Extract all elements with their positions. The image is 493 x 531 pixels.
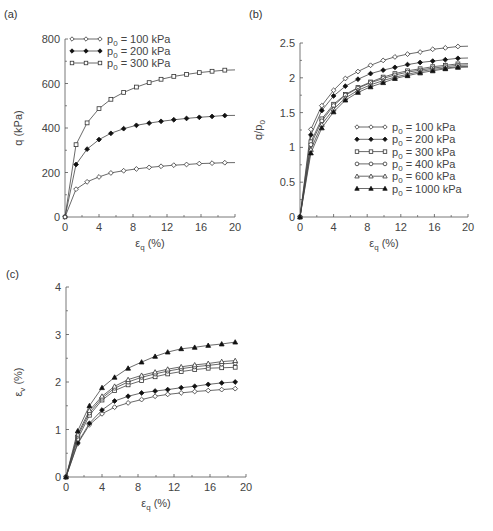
svg-text:2.5: 2.5 (280, 37, 295, 49)
x-axis-label: εq (%) (141, 497, 171, 512)
svg-text:0.5: 0.5 (280, 176, 295, 188)
figure: (a)0481216200200400600800εq (%)q (kPa)p0… (0, 0, 493, 531)
svg-text:200: 200 (42, 167, 60, 179)
svg-text:1.5: 1.5 (280, 107, 295, 119)
chart-panel-c: (c)04812162001234εq (%)εv (%) (6, 268, 252, 512)
svg-text:3: 3 (55, 329, 61, 341)
svg-text:4: 4 (55, 281, 61, 293)
chart-panel-b: (b)04812162000.511.522.5εq (%)q/p0p0 = 1… (249, 8, 474, 252)
series-line (64, 380, 238, 480)
panel-label: (c) (6, 268, 19, 280)
series-line (64, 386, 238, 479)
series-line (63, 68, 235, 219)
series-line (64, 361, 237, 479)
x-axis-label: εq (%) (369, 237, 399, 252)
svg-text:8: 8 (364, 221, 370, 233)
svg-text:0: 0 (54, 211, 60, 223)
svg-text:16: 16 (195, 221, 207, 233)
svg-text:0: 0 (63, 481, 69, 493)
svg-text:12: 12 (168, 481, 180, 493)
svg-text:p0 = 1000 kPa: p0 = 1000 kPa (392, 183, 462, 198)
svg-text:20: 20 (462, 221, 474, 233)
svg-text:8: 8 (130, 221, 136, 233)
svg-text:20: 20 (229, 221, 241, 233)
panel-label: (a) (4, 8, 17, 20)
svg-text:4: 4 (96, 221, 102, 233)
x-axis-label: εq (%) (135, 237, 165, 252)
svg-text:8: 8 (135, 481, 141, 493)
svg-text:20: 20 (240, 481, 252, 493)
svg-text:800: 800 (42, 33, 60, 45)
svg-text:12: 12 (161, 221, 173, 233)
series-line (63, 160, 235, 219)
svg-text:0: 0 (62, 221, 68, 233)
legend-item: p0 = 300 kPa (70, 57, 171, 72)
panel-label: (b) (249, 8, 262, 20)
svg-text:1: 1 (289, 141, 295, 153)
y-axis-label: εv (%) (12, 367, 27, 396)
series-line (64, 358, 238, 479)
svg-text:600: 600 (42, 78, 60, 90)
svg-text:400: 400 (42, 122, 60, 134)
svg-text:4: 4 (331, 221, 337, 233)
svg-text:16: 16 (428, 221, 440, 233)
legend-item: p0 = 1000 kPa (355, 183, 463, 198)
y-axis-label: q/p0 (252, 120, 267, 140)
y-axis-label: q (kPa) (12, 110, 24, 145)
svg-text:4: 4 (99, 481, 105, 493)
chart-panel-a: (a)0481216200200400600800εq (%)q (kPa)p0… (4, 8, 241, 252)
svg-text:2: 2 (289, 72, 295, 84)
svg-text:12: 12 (395, 221, 407, 233)
svg-text:1: 1 (55, 424, 61, 436)
svg-text:0: 0 (297, 221, 303, 233)
svg-text:2: 2 (55, 376, 61, 388)
svg-text:p0 = 300 kPa: p0 = 300 kPa (107, 57, 171, 72)
svg-text:0: 0 (55, 471, 61, 483)
svg-text:16: 16 (204, 481, 216, 493)
svg-text:0: 0 (289, 211, 295, 223)
